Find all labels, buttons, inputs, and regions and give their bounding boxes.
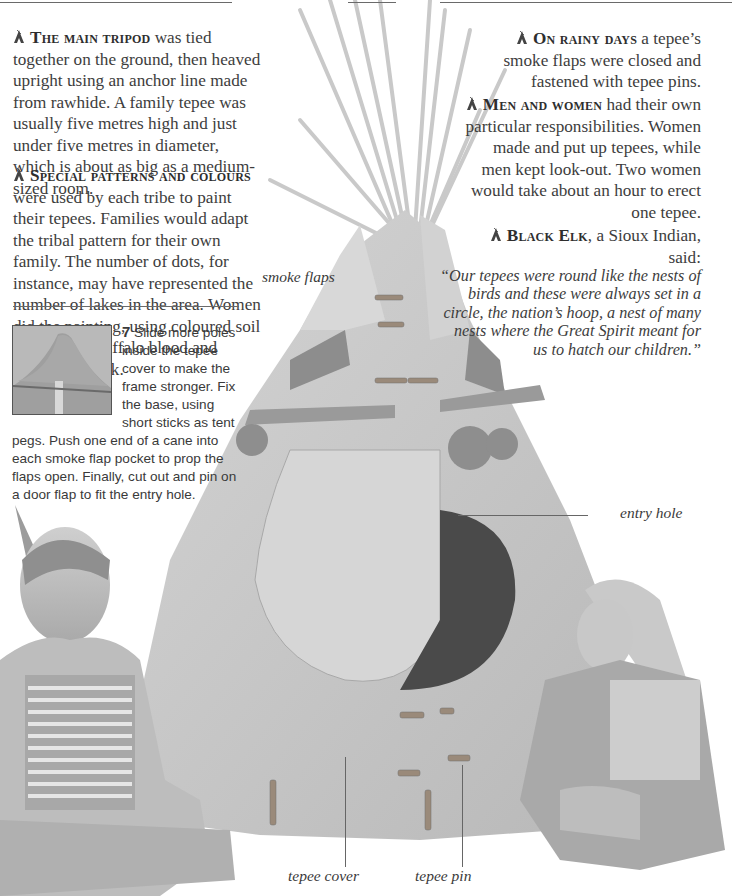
caption-entry-hole: entry hole <box>620 504 682 522</box>
paragraph-rainy-days: On rainy days a tepee’s smoke flaps were… <box>470 28 701 93</box>
section-divider <box>13 306 239 307</box>
paragraph-lead: Men and women <box>483 95 602 114</box>
top-rule-right <box>440 2 732 3</box>
paragraph-black-elk: Black Elk, a Sioux Indian, said: <box>475 225 701 268</box>
tepee-icon <box>516 31 528 45</box>
top-rule-center <box>348 2 396 3</box>
caption-tepee-pin: tepee pin <box>415 867 471 885</box>
caption-smoke-flaps: smoke flaps <box>262 268 335 286</box>
paragraph-body: , a Sioux Indian, said: <box>588 226 701 267</box>
paragraph-lead: Black Elk <box>507 226 588 245</box>
tepee-icon <box>13 30 25 44</box>
step-7-thumbnail <box>12 325 112 415</box>
leader-line-tepee-cover <box>345 757 346 867</box>
leader-line-tepee-pin <box>462 765 463 867</box>
paragraph-men-and-women: Men and women had their own particular r… <box>462 94 701 223</box>
black-elk-quote: “Our tepees were round like the nests of… <box>440 267 701 359</box>
tepee-icon <box>490 228 502 242</box>
top-rule-left <box>0 2 232 3</box>
tepee-top-thumbnail-image <box>13 326 111 414</box>
paragraph-lead: The main tripod <box>30 28 150 47</box>
paragraph-lead: On rainy days <box>533 29 637 48</box>
step-7-instructions: 7 Slide more poles inside the tepee cove… <box>12 323 244 504</box>
leader-line-entry-hole <box>458 515 588 516</box>
paragraph-lead: Special patterns and colours <box>30 166 251 185</box>
tepee-icon <box>466 97 478 111</box>
caption-tepee-cover: tepee cover <box>288 867 359 885</box>
tepee-icon <box>13 168 25 182</box>
